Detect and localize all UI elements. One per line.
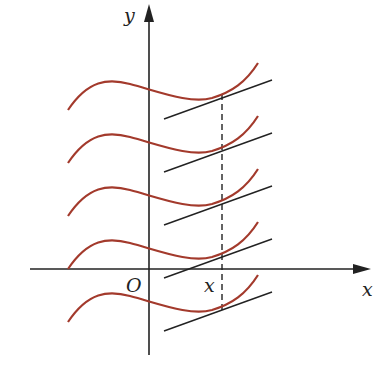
tangent-line-4 (164, 239, 272, 278)
tangent-line-3 (164, 186, 272, 225)
curve-1 (68, 63, 258, 110)
x-axis-arrow-icon (353, 264, 371, 274)
diagram (0, 0, 385, 378)
tangent-line-1 (164, 80, 272, 119)
curve-2 (68, 116, 258, 163)
curve-family (68, 63, 258, 322)
origin-label: O (126, 276, 142, 295)
curve-3 (68, 169, 258, 216)
y-axis-arrow-icon (144, 4, 154, 22)
tangent-line-2 (164, 133, 272, 172)
x-point-label: x (204, 276, 215, 295)
tangent-line-5 (164, 292, 272, 331)
y-axis-label: y (124, 6, 135, 25)
curve-5 (68, 275, 258, 322)
curve-4 (68, 222, 258, 269)
x-axis-label: x (362, 280, 373, 299)
